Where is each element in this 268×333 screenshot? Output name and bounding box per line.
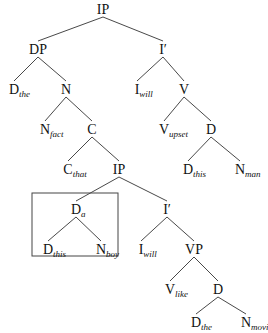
tree-edge	[48, 217, 76, 241]
node-subscript: a	[81, 209, 86, 219]
node-subscript: that	[73, 169, 88, 179]
node-label: D	[43, 242, 53, 257]
node-label: I′	[159, 42, 167, 57]
node-label: IP	[113, 162, 126, 177]
tree-edge	[76, 177, 119, 201]
node-label: V	[179, 82, 189, 97]
tree-nodes: IPDPI′DtheNIwillVNfactCVupsetDCthatIPDth…	[9, 2, 268, 332]
tree-node-ibar1: I′	[159, 42, 167, 57]
node-subscript: movie	[251, 322, 268, 332]
tree-edge	[211, 137, 240, 161]
node-label: D	[206, 122, 216, 137]
tree-node-d-a: Da	[71, 202, 86, 219]
node-subscript: like	[175, 289, 188, 299]
node-label: I′	[163, 202, 171, 217]
node-subscript: boy	[106, 249, 119, 259]
tree-edge	[68, 137, 92, 161]
tree-edge	[218, 297, 246, 314]
node-label: D	[191, 315, 201, 330]
tree-node-d-this2: Dthis	[43, 242, 67, 259]
node-label: DP	[29, 42, 47, 57]
node-subscript: this	[53, 249, 67, 259]
tree-edges	[14, 17, 246, 314]
tree-node-c1: C	[87, 122, 96, 137]
node-label: V	[159, 122, 169, 137]
tree-node-n1: N	[61, 82, 71, 97]
tree-edge	[184, 97, 211, 121]
tree-node-n-fact: Nfact	[40, 122, 64, 139]
node-subscript: upset	[169, 129, 188, 139]
tree-edge	[14, 57, 38, 81]
tree-edge	[119, 177, 167, 201]
tree-edge	[45, 97, 66, 121]
tree-node-n-man: Nman	[235, 162, 261, 179]
node-label: D	[213, 282, 223, 297]
tree-node-c-that: Cthat	[63, 162, 87, 179]
tree-edge	[92, 137, 119, 161]
tree-node-ip2: IP	[113, 162, 126, 177]
tree-edge	[141, 217, 167, 241]
node-label: N	[96, 242, 106, 257]
tree-node-ip-root: IP	[97, 2, 110, 17]
tree-edge	[103, 17, 163, 41]
tree-edge	[76, 217, 101, 241]
tree-node-n-movie: Nmovie	[241, 315, 268, 332]
tree-node-ibar2: I′	[163, 202, 171, 217]
tree-node-v-like: Vlike	[165, 282, 188, 299]
tree-node-dp: DP	[29, 42, 47, 57]
tree-node-i-will1: Iwill	[135, 82, 154, 99]
node-subscript: will	[143, 249, 157, 259]
tree-edge	[137, 57, 163, 81]
node-label: N	[235, 162, 245, 177]
tree-node-vp: VP	[185, 242, 203, 257]
node-label: N	[40, 122, 50, 137]
node-label: N	[241, 315, 251, 330]
tree-edge	[194, 257, 218, 281]
tree-node-d2: D	[213, 282, 223, 297]
tree-node-i-will2: Iwill	[139, 242, 158, 259]
node-label: C	[63, 162, 72, 177]
tree-edge	[188, 137, 211, 161]
tree-node-d-the1: Dthe	[9, 82, 30, 99]
node-subscript: the	[201, 322, 212, 332]
tree-edge	[164, 97, 184, 121]
syntax-tree: IPDPI′DtheNIwillVNfactCVupsetDCthatIPDth…	[0, 0, 268, 333]
tree-edge	[163, 57, 184, 81]
tree-edge	[38, 17, 103, 41]
node-label: V	[165, 282, 175, 297]
tree-node-n-boy: Nboy	[96, 242, 119, 259]
tree-node-d1: D	[206, 122, 216, 137]
node-subscript: fact	[50, 129, 64, 139]
node-label: D	[183, 162, 193, 177]
tree-node-v1: V	[179, 82, 189, 97]
node-label: D	[9, 82, 19, 97]
tree-node-d-the2: Dthe	[191, 315, 212, 332]
node-subscript: this	[193, 169, 207, 179]
tree-node-v-upset: Vupset	[159, 122, 189, 139]
node-subscript: man	[245, 169, 261, 179]
node-subscript: will	[139, 89, 153, 99]
node-label: IP	[97, 2, 110, 17]
tree-edge	[170, 257, 194, 281]
node-label: D	[71, 202, 81, 217]
tree-edge	[66, 97, 92, 121]
tree-edge	[38, 57, 66, 81]
tree-edge	[167, 217, 194, 241]
node-subscript: the	[19, 89, 30, 99]
node-label: VP	[185, 242, 203, 257]
tree-node-d-this1: Dthis	[183, 162, 207, 179]
node-label: C	[87, 122, 96, 137]
tree-edge	[196, 297, 218, 314]
node-label: N	[61, 82, 71, 97]
